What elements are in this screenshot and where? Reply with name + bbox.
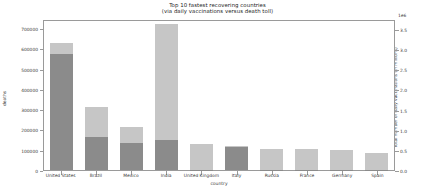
x-axis-label: country xyxy=(43,181,395,186)
stacked-bar[interactable] xyxy=(225,146,247,170)
stacked-bar[interactable] xyxy=(120,127,142,170)
bar-slot xyxy=(114,21,149,170)
right-axis-offset-label: 1e6 xyxy=(398,13,406,18)
y-tick-label-right: 3.5 xyxy=(400,28,407,33)
y-tick-label-left: 700000 xyxy=(21,27,38,32)
y-tick-label-right: 0.0 xyxy=(400,169,407,174)
y-tick-mark-left xyxy=(40,90,44,91)
y-tick-mark-left xyxy=(40,171,44,172)
y-tick-label-left: 300000 xyxy=(21,108,38,113)
bar-segment-deaths[interactable] xyxy=(50,54,72,170)
bar-segment-vaccinations[interactable] xyxy=(190,144,212,169)
y-tick-label-right: 2.5 xyxy=(400,68,407,73)
y-tick-label-right: 2.0 xyxy=(400,88,407,93)
y-tick-mark-right xyxy=(395,90,399,91)
bar-slot xyxy=(79,21,114,170)
y-axis-label-left: deaths xyxy=(2,91,7,106)
y-tick-label-right: 3.0 xyxy=(400,48,407,53)
y-tick-mark-left xyxy=(40,49,44,50)
y-tick-mark-left xyxy=(40,110,44,111)
y-tick-mark-left xyxy=(40,29,44,30)
y-tick-mark-right xyxy=(395,50,399,51)
bar-group xyxy=(44,21,394,170)
bar-slot xyxy=(149,21,184,170)
bar-segment-vaccinations[interactable] xyxy=(260,149,282,170)
y-tick-label-right: 1.0 xyxy=(400,128,407,133)
bar-segment-vaccinations[interactable] xyxy=(85,107,107,137)
bar-segment-vaccinations[interactable] xyxy=(120,127,142,143)
bar-segment-vaccinations[interactable] xyxy=(330,150,352,170)
bar-segment-vaccinations[interactable] xyxy=(155,24,177,140)
bar-segment-vaccinations[interactable] xyxy=(295,149,317,170)
y-tick-mark-left xyxy=(40,130,44,131)
y-tick-label-left: 100000 xyxy=(21,148,38,153)
stacked-bar[interactable] xyxy=(365,153,387,170)
y-tick-mark-right xyxy=(395,70,399,71)
stacked-bar[interactable] xyxy=(190,144,212,170)
y-tick-label-left: 500000 xyxy=(21,67,38,72)
stacked-bar[interactable] xyxy=(155,24,177,170)
bar-slot xyxy=(289,21,324,170)
stacked-bar[interactable] xyxy=(85,107,107,170)
bar-segment-vaccinations[interactable] xyxy=(365,153,387,169)
bar-slot xyxy=(44,21,79,170)
bar-segment-deaths[interactable] xyxy=(85,137,107,170)
bar-segment-deaths[interactable] xyxy=(155,140,177,170)
y-tick-label-left: 400000 xyxy=(21,87,38,92)
bar-slot xyxy=(324,21,359,170)
stacked-bar[interactable] xyxy=(295,149,317,170)
stacked-bar[interactable] xyxy=(260,149,282,170)
bar-segment-deaths[interactable] xyxy=(120,143,142,170)
y-tick-label-left: 200000 xyxy=(21,128,38,133)
y-tick-mark-right xyxy=(395,111,399,112)
y-tick-label-left: 0 xyxy=(35,169,38,174)
y-tick-mark-right xyxy=(395,151,399,152)
chart-subtitle: (via daily vaccinations versus death tol… xyxy=(0,8,435,14)
bar-slot xyxy=(254,21,289,170)
chart-title-block: Top 10 fastest recovering countries (via… xyxy=(0,2,435,15)
stacked-bar[interactable] xyxy=(50,43,72,170)
bar-segment-deaths[interactable] xyxy=(225,147,247,170)
y-tick-label-right: 0.5 xyxy=(400,148,407,153)
bar-slot xyxy=(219,21,254,170)
y-tick-mark-right xyxy=(395,171,399,172)
bar-slot xyxy=(359,21,394,170)
y-tick-label-left: 600000 xyxy=(21,47,38,52)
y-tick-mark-right xyxy=(395,131,399,132)
y-tick-label-right: 1.5 xyxy=(400,108,407,113)
bar-segment-vaccinations[interactable] xyxy=(50,43,72,54)
y-tick-mark-right xyxy=(395,30,399,31)
y-tick-mark-left xyxy=(40,151,44,152)
plot-area xyxy=(43,20,395,171)
y-tick-mark-left xyxy=(40,70,44,71)
bar-slot xyxy=(184,21,219,170)
chart-figure: Top 10 fastest recovering countries (via… xyxy=(0,0,435,193)
stacked-bar[interactable] xyxy=(330,150,352,170)
